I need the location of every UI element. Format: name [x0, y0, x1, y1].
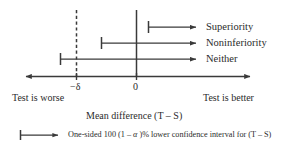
x-tick-label-delta: −δ: [70, 82, 80, 92]
direction-label-better: Test is better: [203, 93, 254, 103]
ci-superiority: [149, 21, 197, 33]
ci-noninferiority: [102, 37, 197, 49]
arm-label-noninferiority: Noninferiority: [206, 38, 267, 49]
legend-text-part-2: )% lower confidence interval for (T – S): [137, 130, 271, 139]
legend-marker: [21, 130, 59, 140]
figure-canvas: [0, 0, 304, 148]
legend-text-part-1: One-sided 100 (1 –: [68, 130, 133, 139]
noninferiority-superiority-figure: Superiority Noninferiority Neither −δ 0 …: [0, 0, 304, 148]
arm-label-superiority: Superiority: [206, 22, 253, 33]
arm-label-neither: Neither: [206, 54, 238, 65]
x-axis-title: Mean difference (T – S): [86, 111, 182, 121]
direction-label-worse: Test is worse: [12, 93, 64, 103]
x-tick-label-zero: 0: [133, 82, 138, 92]
ci-neither: [61, 53, 197, 65]
legend-text: One-sided 100 (1 – α )% lower confidence…: [68, 131, 271, 139]
